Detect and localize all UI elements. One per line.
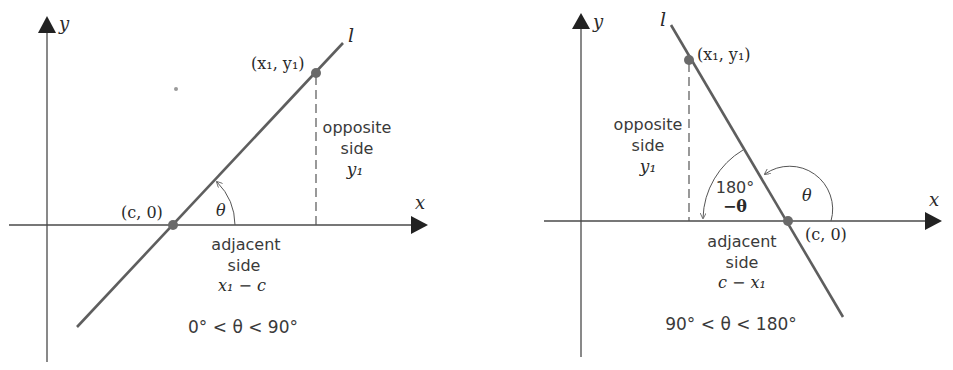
svg-text:−θ: −θ: [723, 197, 747, 216]
left-point-top-label: (x₁, y₁): [251, 54, 305, 73]
right-theta-arc: [765, 166, 833, 221]
svg-text:180°: 180°: [716, 178, 755, 197]
svg-text:y₁: y₁: [639, 156, 656, 176]
right-y-label: y: [592, 11, 604, 32]
right-panel: y x l (x₁, y₁) (c, 0) θ 180° −θ opposite…: [544, 8, 942, 357]
svg-text:side: side: [341, 139, 374, 158]
right-range-label: 90° < θ < 180°: [665, 314, 797, 334]
svg-text:side: side: [632, 136, 665, 155]
svg-text:adjacent: adjacent: [211, 235, 280, 254]
left-x-label: x: [415, 192, 425, 213]
left-point-axis: [168, 220, 178, 230]
left-panel: y x l (x₁, y₁) (c, 0) θ opposite side y₁…: [9, 13, 428, 362]
right-point-axis-label: (c, 0): [805, 225, 847, 244]
left-y-arrow-icon: [38, 16, 56, 33]
left-line-l: [77, 43, 343, 327]
left-x-arrow-icon: [411, 216, 428, 234]
right-point-top-label: (x₁, y₁): [697, 45, 751, 64]
svg-text:opposite: opposite: [323, 118, 392, 137]
left-opposite-label: opposite side y₁: [323, 118, 392, 179]
svg-text:y₁: y₁: [346, 159, 363, 179]
svg-text:side: side: [228, 256, 261, 275]
left-speck: [174, 87, 178, 91]
svg-text:adjacent: adjacent: [707, 232, 776, 251]
right-line-label: l: [660, 8, 666, 30]
left-range-label: 0° < θ < 90°: [188, 317, 298, 337]
left-line-label: l: [348, 24, 354, 46]
right-opposite-label: opposite side y₁: [614, 115, 683, 176]
diagram-canvas: y x l (x₁, y₁) (c, 0) θ opposite side y₁…: [0, 0, 953, 370]
right-adjacent-label: adjacent side c − x₁: [707, 232, 776, 292]
right-point-top: [684, 55, 694, 65]
right-theta-label: θ: [802, 186, 812, 205]
left-point-top: [311, 68, 321, 78]
left-adjacent-label: adjacent side x₁ − c: [211, 235, 280, 295]
left-theta-label: θ: [216, 201, 226, 220]
left-y-label: y: [58, 13, 70, 34]
right-y-arrow-icon: [572, 13, 590, 29]
right-x-label: x: [929, 189, 939, 210]
svg-text:x₁ − c: x₁ − c: [218, 276, 266, 295]
svg-text:c − x₁: c − x₁: [718, 273, 766, 292]
left-point-axis-label: (c, 0): [121, 203, 163, 222]
right-supplement-label: 180° −θ: [716, 178, 755, 216]
right-x-arrow-icon: [925, 212, 942, 230]
svg-text:opposite: opposite: [614, 115, 683, 134]
right-point-axis: [783, 216, 793, 226]
svg-text:side: side: [726, 253, 759, 272]
